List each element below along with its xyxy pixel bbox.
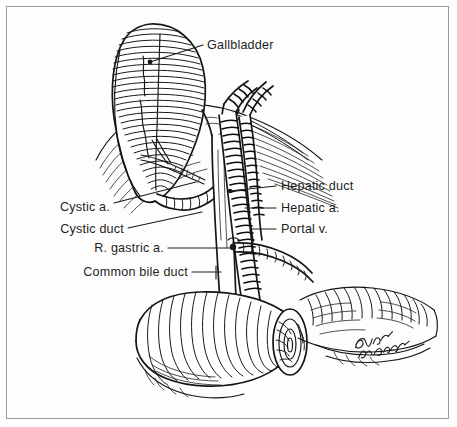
leader-common-bile-duct [192,266,221,279]
duodenum-cut-end [273,309,307,375]
label-hepatic-artery: Hepatic a. [281,201,340,215]
pancreas-tissue [298,287,437,366]
label-hepatic-duct: Hepatic duct [281,179,354,193]
leader-cystic-duct [128,212,202,228]
label-gallbladder: Gallbladder [207,38,274,52]
label-cystic-duct: Cystic duct [60,222,124,236]
duodenum [136,292,307,398]
label-portal-vein: Portal v. [281,222,328,236]
anatomical-figure: Gallbladder Hepatic duct Hepatic a. Port… [0,0,457,427]
label-cystic-artery: Cystic a. [60,200,110,214]
label-common-bile-duct: Common bile duct [83,265,188,279]
label-texts: Gallbladder Hepatic duct Hepatic a. Port… [60,38,354,279]
illustration-canvas: Gallbladder Hepatic duct Hepatic a. Port… [0,0,457,427]
label-right-gastric-artery: R. gastric a. [94,241,164,255]
gallbladder [112,24,205,202]
